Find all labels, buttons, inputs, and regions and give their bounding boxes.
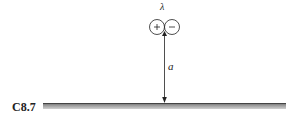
strength-label: λ — [160, 1, 164, 12]
distance-label: a — [168, 60, 174, 72]
wall-arrowhead-icon — [162, 97, 167, 103]
doublet-diagram — [0, 0, 295, 126]
